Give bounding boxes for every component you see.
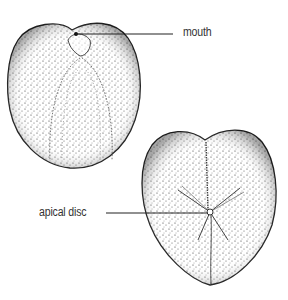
mouth-label: mouth [183,25,211,39]
aboral-view-figure [142,130,276,285]
oral-view-figure [8,23,141,168]
urchin-illustration [0,0,288,300]
apical-disc-label: apical disc [39,205,86,219]
apical-disc-point [207,209,213,215]
